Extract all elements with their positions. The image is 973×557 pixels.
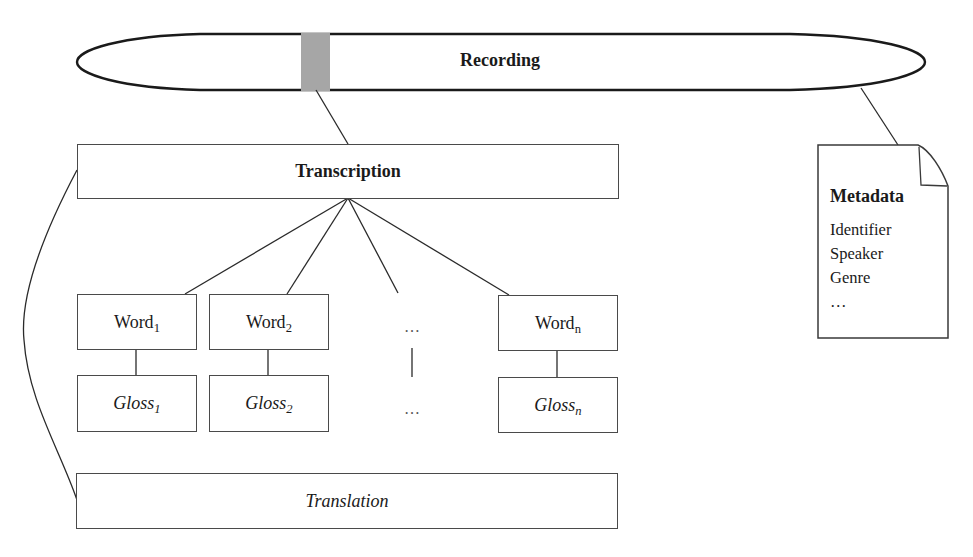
metadata-item-ellipsis: … (830, 290, 891, 314)
metadata-items: Identifier Speaker Genre … (830, 218, 891, 314)
word-box-n[interactable]: Wordn (498, 295, 618, 351)
metadata-item-genre: Genre (830, 266, 891, 290)
word-box-1[interactable]: Word1 (77, 294, 197, 350)
gloss-label: Gloss1 (113, 393, 160, 414)
recording-label: Recording (440, 50, 560, 71)
word-box-2[interactable]: Word2 (209, 294, 329, 350)
transcription-box[interactable]: Transcription (77, 144, 619, 199)
recording-segment[interactable] (301, 33, 330, 91)
word-ellipsis: … (392, 318, 432, 336)
metadata-title: Metadata (830, 186, 904, 207)
gloss-ellipsis: … (392, 400, 432, 418)
gloss-label: Gloss2 (245, 393, 292, 414)
metadata-item-speaker: Speaker (830, 242, 891, 266)
metadata-item-identifier: Identifier (830, 218, 891, 242)
word-label: Word1 (114, 312, 160, 333)
word-label: Word2 (246, 312, 292, 333)
translation-box[interactable]: Translation (76, 473, 618, 529)
gloss-box-n[interactable]: Glossn (498, 377, 618, 433)
word-label: Wordn (535, 313, 581, 334)
transcription-label: Transcription (295, 161, 401, 182)
gloss-box-1[interactable]: Gloss1 (77, 375, 197, 432)
gloss-box-2[interactable]: Gloss2 (209, 375, 329, 432)
gloss-label: Glossn (534, 395, 581, 416)
translation-label: Translation (305, 491, 388, 512)
